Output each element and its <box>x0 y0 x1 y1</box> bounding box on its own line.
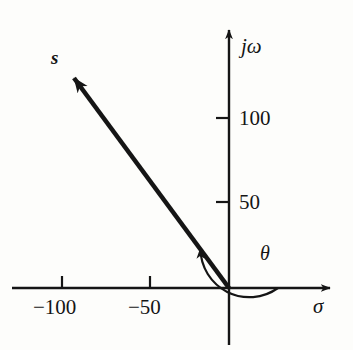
vector-s-line <box>74 78 229 288</box>
jomega-axis-label: jω <box>241 36 262 57</box>
sigma-tick-label--50: −50 <box>128 297 161 318</box>
jomega-tick-label-100: 100 <box>239 108 271 129</box>
theta-angle-label: θ <box>260 243 270 263</box>
sigma-tick-label--100: −100 <box>33 297 76 318</box>
s-plane-vector-diagram: jω σ 100 50 −100 −50 s θ <box>0 0 353 350</box>
jomega-tick-label-50: 50 <box>239 192 260 213</box>
vector-s-label: s <box>51 48 58 67</box>
sigma-axis-label: σ <box>313 296 323 317</box>
